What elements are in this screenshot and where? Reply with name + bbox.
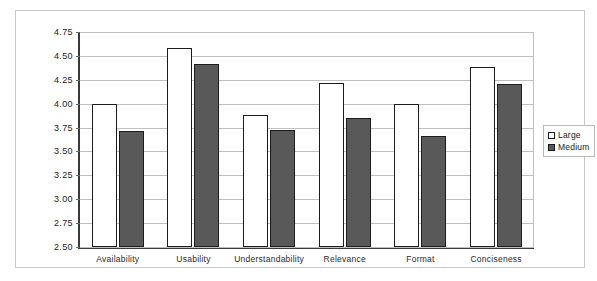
bar-large: [92, 104, 117, 247]
bar-group: Usability: [156, 32, 232, 247]
bar-medium: [346, 118, 371, 247]
bar-large: [394, 104, 419, 247]
y-axis-tick-label: 3.75: [54, 123, 73, 133]
x-axis-category-label: Understandability: [234, 254, 304, 264]
bar-medium: [119, 131, 144, 247]
bar-group: Format: [383, 32, 459, 247]
legend-item: Large: [548, 129, 589, 141]
bar-group: Relevance: [307, 32, 383, 247]
bar-medium: [270, 130, 295, 247]
bar-medium: [194, 64, 219, 247]
filled-square-icon: [548, 144, 555, 151]
bar-large: [470, 67, 495, 247]
bar-group: Understandability: [231, 32, 307, 247]
x-axis-category-label: Conciseness: [470, 254, 521, 264]
x-axis-category-label: Format: [406, 254, 434, 264]
legend-item: Medium: [548, 141, 589, 153]
legend-item-label: Large: [558, 130, 581, 140]
bar-large: [167, 48, 192, 247]
x-axis-category-label: Usability: [176, 254, 210, 264]
gridline: [80, 247, 534, 248]
y-axis-tick-label: 4.25: [54, 75, 73, 85]
y-axis-tick-label: 2.75: [54, 218, 73, 228]
y-axis-tick-label: 3.50: [54, 146, 73, 156]
bar-large: [243, 115, 268, 247]
y-axis-tick-label: 2.50: [54, 242, 73, 252]
bar-large: [319, 83, 344, 247]
bar-medium: [497, 84, 522, 247]
y-axis-tick-label: 4.00: [54, 99, 73, 109]
hollow-square-icon: [548, 132, 555, 139]
y-axis-tick-label: 3.25: [54, 170, 73, 180]
chart-legend: LargeMedium: [543, 125, 595, 157]
y-axis-tick-label: 4.75: [54, 27, 73, 37]
y-axis-tick-label: 3.00: [54, 194, 73, 204]
plot-area: 2.502.753.003.253.503.754.004.254.504.75…: [78, 32, 534, 249]
bar-medium: [421, 136, 446, 247]
legend-item-label: Medium: [558, 142, 589, 152]
x-axis-category-label: Availability: [96, 254, 139, 264]
x-axis-category-label: Relevance: [324, 254, 366, 264]
bar-group: Availability: [80, 32, 156, 247]
bar-group: Conciseness: [458, 32, 534, 247]
y-axis-tick: [76, 247, 80, 248]
chart-figure: 2.502.753.003.253.503.754.004.254.504.75…: [15, 10, 585, 268]
y-axis-tick-label: 4.50: [54, 51, 73, 61]
